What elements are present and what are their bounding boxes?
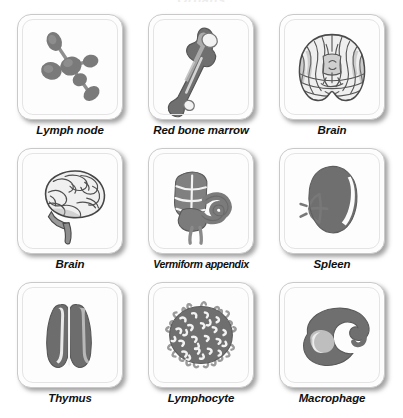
organ-card[interactable] [17, 148, 123, 254]
brain-coronal-section-icon [280, 15, 384, 119]
organ-card[interactable] [279, 282, 385, 388]
organ-card[interactable] [279, 14, 385, 120]
organ-card-grid: Lymph node Red bone marrow [8, 14, 398, 418]
organ-cell-thymus[interactable]: Thymus [8, 282, 132, 416]
organ-label: Brain [0, 258, 144, 270]
organ-card[interactable] [148, 14, 254, 120]
lymph-node-icon [18, 15, 122, 119]
cecum-appendix-icon [149, 149, 253, 253]
organ-label: Thymus [0, 392, 144, 404]
organ-cell-macrophage[interactable]: Macrophage [270, 282, 394, 416]
organ-cell-lymphocyte[interactable]: Lymphocyte [139, 282, 263, 416]
organ-cell-red-bone-marrow[interactable]: Red bone marrow [139, 14, 263, 148]
organ-label: Brain [258, 124, 403, 136]
brain-lateral-icon [18, 149, 122, 253]
organ-card[interactable] [148, 148, 254, 254]
organ-card[interactable] [17, 282, 123, 388]
organ-cell-brain-coronal[interactable]: Brain [270, 14, 394, 148]
organ-label: Macrophage [258, 392, 403, 404]
femur-bone-icon [149, 15, 253, 119]
organ-card[interactable] [17, 14, 123, 120]
organ-card[interactable] [148, 282, 254, 388]
organ-label: Spleen [258, 258, 403, 270]
organ-label: Lymph node [0, 124, 144, 136]
organ-cell-lymph-node[interactable]: Lymph node [8, 14, 132, 148]
organ-label: Vermiform appendix [127, 258, 275, 270]
organ-label: Lymphocyte [127, 392, 275, 404]
thymus-icon [18, 283, 122, 387]
organs-grid-page: Organs [0, 0, 403, 418]
organ-cell-brain-lateral[interactable]: Brain [8, 148, 132, 282]
organ-card[interactable] [279, 148, 385, 254]
lymphocyte-cell-icon [149, 283, 253, 387]
organ-cell-spleen[interactable]: Spleen [270, 148, 394, 282]
macrophage-cell-icon [280, 283, 384, 387]
spleen-icon [280, 149, 384, 253]
page-title: Organs [0, 0, 403, 2]
organ-cell-vermiform-appendix[interactable]: Vermiform appendix [139, 148, 263, 282]
organ-label: Red bone marrow [127, 124, 275, 136]
